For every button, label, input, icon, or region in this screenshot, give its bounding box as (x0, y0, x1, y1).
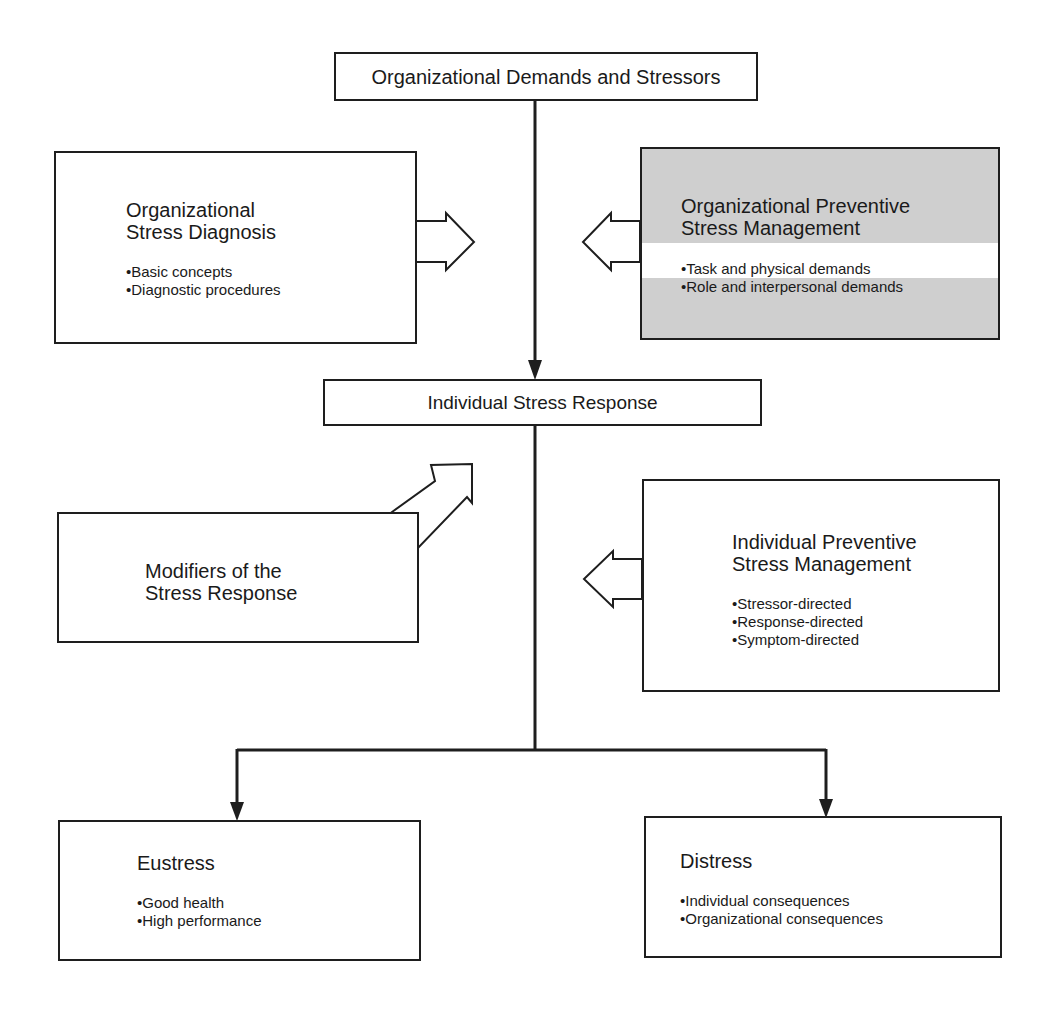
box-individual-stress-response: Individual Stress Response (323, 379, 762, 426)
box-distress: Distress Individual consequences Organiz… (644, 816, 1002, 958)
bullet-list: Good health High performance (137, 894, 262, 930)
box-title: Distress (680, 850, 752, 872)
box-organizational-stress-diagnosis: Organizational Stress Diagnosis Basic co… (54, 151, 417, 344)
box-title: Organizational Preventive Stress Managem… (681, 195, 910, 239)
box-individual-preventive-stress-management: Individual Preventive Stress Management … (642, 479, 1000, 692)
hollow-arrow-left-icon (584, 551, 642, 607)
box-title: Eustress (137, 852, 215, 874)
hollow-arrow-left-icon (583, 213, 640, 270)
bullet-list: Basic concepts Diagnostic procedures (126, 263, 281, 299)
box-title: Organizational Demands and Stressors (336, 66, 756, 89)
bullet-list: Task and physical demands Role and inter… (681, 260, 903, 296)
box-title: Modifiers of the Stress Response (145, 560, 297, 604)
arrow-down-icon (528, 360, 542, 380)
box-eustress: Eustress Good health High performance (58, 820, 421, 961)
box-title: Individual Stress Response (325, 392, 760, 414)
box-organizational-preventive-stress-management: Organizational Preventive Stress Managem… (640, 147, 1000, 340)
box-modifiers-of-stress-response: Modifiers of the Stress Response (57, 512, 419, 643)
bullet-list: Individual consequences Organizational c… (680, 892, 883, 928)
bullet-list: Stressor-directed Response-directed Symp… (732, 595, 863, 649)
box-title: Organizational Stress Diagnosis (126, 199, 276, 243)
box-title: Individual Preventive Stress Management (732, 531, 917, 575)
box-organizational-demands: Organizational Demands and Stressors (334, 52, 758, 101)
hollow-arrow-right-icon (416, 213, 474, 270)
arrow-down-icon (230, 802, 244, 821)
